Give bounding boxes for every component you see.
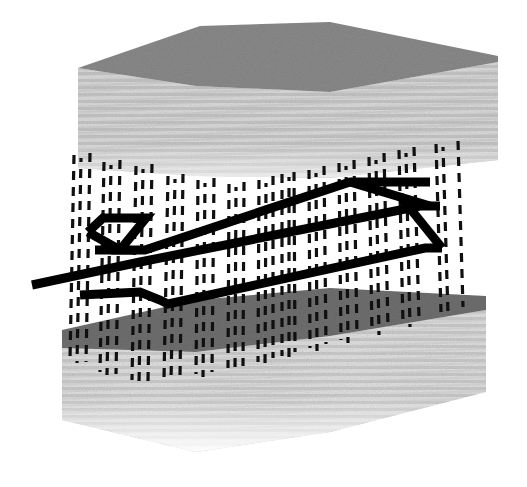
dashed-trace-line (235, 187, 236, 371)
block-diagram-svg (0, 0, 527, 487)
figure-container: 3D block diagram with dashed vertical tr… (0, 0, 527, 487)
